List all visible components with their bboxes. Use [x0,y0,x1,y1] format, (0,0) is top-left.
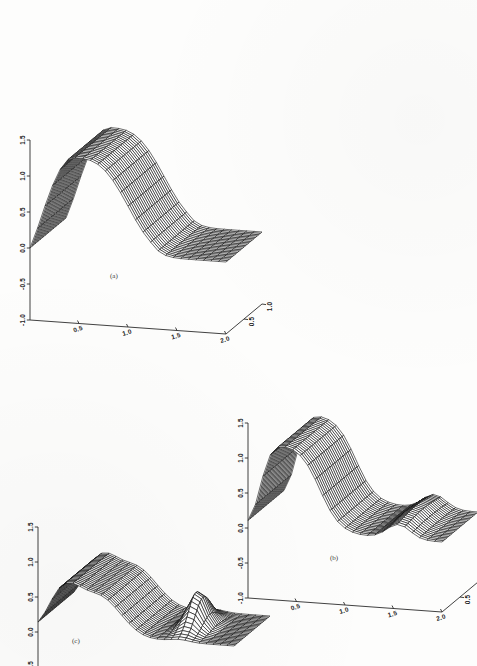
surface-plot-panel-c: -1.0-0.50.00.51.01.50.51.01.52.00.51.0 [8,392,270,666]
x-tick-label: 2.0 [435,612,446,621]
z-tick-label: 0.5 [19,207,26,217]
z-tick-label: -0.5 [19,278,26,290]
surface-mesh [248,417,477,542]
surface-mesh [30,128,262,262]
x-tick-label: 0.5 [290,602,301,611]
x-tick-label: 0.5 [72,324,83,333]
z-tick-label: 0.5 [27,592,34,602]
surface-plot-c-svg: -1.0-0.50.00.51.01.50.51.01.52.00.51.0 [8,392,270,666]
x-tick-label: 1.5 [387,609,398,618]
panel-caption-a: (a) [110,272,118,280]
surface-plot-a-svg: -1.0-0.50.00.51.01.50.51.01.52.00.51.0 [0,0,260,300]
z-tick-label: 1.5 [27,522,34,532]
z-tick-label: -0.5 [27,661,34,666]
z-tick-label: 1.5 [19,135,26,145]
z-tick-label: 0.0 [27,627,34,637]
surface-mesh [38,553,270,646]
z-tick-label: -1.0 [19,314,26,326]
z-tick-label: 0.0 [19,243,26,253]
z-tick-label: 1.0 [27,557,34,567]
x-tick-label: 1.5 [170,331,181,340]
z-tick-label: 1.0 [19,171,26,181]
y-tick-label: 0.5 [464,595,471,605]
x-tick-label: 1.0 [121,327,132,336]
panel-caption-c: (c) [72,637,80,645]
surface-plot-panel-a: -1.0-0.50.00.51.01.50.51.01.52.00.51.0 [0,0,260,300]
panel-caption-b: (b) [330,554,338,562]
x-tick-label: 1.0 [338,605,349,614]
